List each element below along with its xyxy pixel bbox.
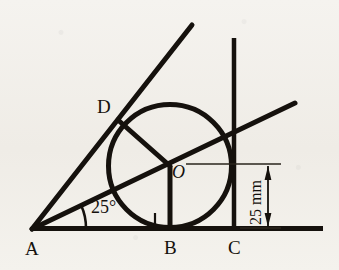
geometry-figure: A B C D O 25° 25 mm [0, 0, 339, 270]
radius-segment-od [118, 120, 170, 166]
point-label-d: D [97, 97, 111, 116]
vertex-label-c: C [228, 238, 241, 257]
dimension-arrowhead-top [265, 166, 272, 180]
vertex-label-b: B [164, 238, 177, 257]
dimension-arrowhead-bottom [265, 213, 272, 227]
angle-label-25-degrees: 25° [91, 198, 116, 216]
center-label-o: O [172, 163, 185, 181]
vertex-label-a: A [25, 239, 39, 258]
diagram-canvas [0, 0, 339, 270]
angle-arc-25deg [81, 205, 86, 228]
dimension-label-25mm: 25 mm [248, 180, 264, 225]
